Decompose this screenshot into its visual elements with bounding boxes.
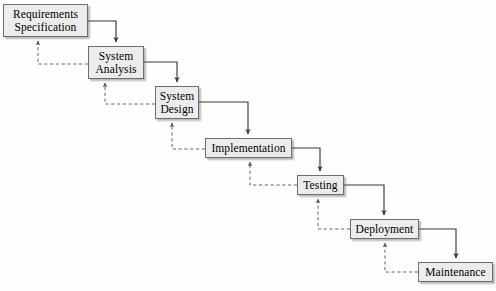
phase-box-deployment[interactable]: Deployment [350, 219, 419, 239]
feedback-system-analysis-to-requirements [38, 41, 88, 64]
feedback-system-design-to-system-analysis [105, 83, 155, 104]
edge-deployment-to-maintenance [419, 229, 456, 258]
feedback-testing-to-implementation [250, 162, 297, 185]
phase-box-requirements-specification[interactable]: Requirements Specification [3, 4, 88, 37]
feedback-maintenance-to-deployment [385, 243, 418, 272]
edge-implementation-to-testing [292, 148, 320, 171]
edge-system-analysis-to-system-design [144, 62, 177, 82]
phase-box-testing[interactable]: Testing [297, 175, 344, 195]
waterfall-diagram: Requirements Specification System Analys… [0, 0, 496, 291]
phase-box-system-analysis[interactable]: System Analysis [88, 46, 144, 79]
edge-testing-to-deployment [344, 185, 384, 215]
edge-requirements-to-system-analysis [88, 21, 116, 42]
edge-system-design-to-implementation [199, 102, 248, 134]
phase-box-system-design[interactable]: System Design [155, 86, 199, 119]
phase-box-implementation[interactable]: Implementation [205, 138, 292, 158]
feedback-deployment-to-testing [318, 199, 350, 229]
feedback-implementation-to-system-design [172, 123, 205, 149]
phase-box-maintenance[interactable]: Maintenance [418, 262, 493, 282]
